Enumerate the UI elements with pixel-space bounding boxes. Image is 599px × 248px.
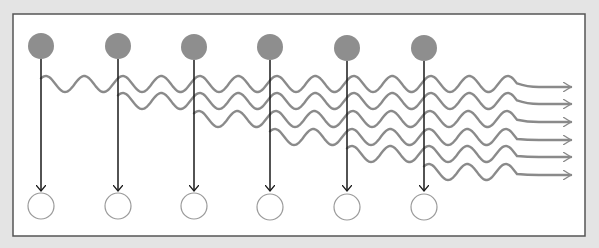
diagram-svg <box>0 0 599 248</box>
target-circle-2 <box>105 193 131 219</box>
source-circle-3 <box>181 34 207 60</box>
source-circle-1 <box>28 33 54 59</box>
target-circle-1 <box>28 193 54 219</box>
target-circle-3 <box>181 193 207 219</box>
source-circle-2 <box>105 33 131 59</box>
source-circle-5 <box>334 35 360 61</box>
source-circle-4 <box>257 34 283 60</box>
target-circle-6 <box>411 194 437 220</box>
target-circle-4 <box>257 194 283 220</box>
target-circle-5 <box>334 194 360 220</box>
diagram-canvas <box>0 0 599 248</box>
source-circle-6 <box>411 35 437 61</box>
